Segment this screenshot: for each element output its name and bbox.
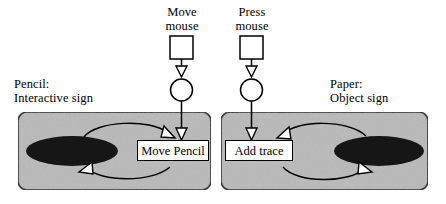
label-pencil-panel: Pencil: Interactive sign	[14, 78, 93, 105]
action-box-add-trace: Add trace	[225, 140, 293, 161]
label-paper-line2: Object sign	[330, 92, 388, 106]
label-press-mouse-line1: Press	[226, 6, 278, 20]
label-press-mouse-line2: mouse	[226, 20, 278, 34]
diagram-canvas: Move mouse Press mouse Pencil: Interacti…	[0, 0, 446, 204]
paper-sign-ellipse	[334, 136, 424, 166]
press-mouse-arrowhead-1	[246, 66, 257, 77]
pencil-sign-ellipse	[26, 136, 118, 166]
label-move-mouse-line2: mouse	[156, 20, 208, 34]
label-paper-line1: Paper:	[330, 78, 388, 92]
move-mouse-square	[170, 36, 193, 59]
label-move-mouse: Move mouse	[156, 6, 208, 33]
action-box-move-pencil: Move Pencil	[137, 140, 209, 161]
press-mouse-circle	[241, 79, 263, 101]
label-press-mouse: Press mouse	[226, 6, 278, 33]
press-mouse-square	[240, 36, 263, 59]
label-move-mouse-line1: Move	[156, 6, 208, 20]
label-pencil-line2: Interactive sign	[14, 92, 93, 106]
label-paper-panel: Paper: Object sign	[330, 78, 388, 105]
label-pencil-line1: Pencil:	[14, 78, 93, 92]
move-mouse-circle	[171, 79, 193, 101]
move-mouse-arrowhead-1	[176, 66, 187, 77]
